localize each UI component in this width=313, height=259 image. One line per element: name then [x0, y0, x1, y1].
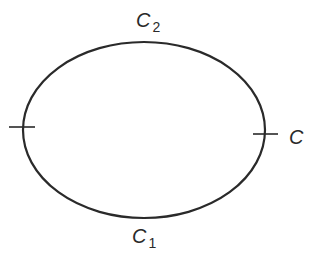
label-lower-arc: C1	[132, 226, 156, 250]
label-upper-arc-base: C	[136, 9, 150, 31]
closed-curve-diagram: C2 C C1	[0, 0, 313, 259]
label-lower-arc-base: C	[132, 225, 146, 247]
closed-curve-c	[23, 42, 265, 218]
label-upper-arc: C2	[136, 10, 160, 34]
label-curve: C	[289, 127, 303, 147]
diagram-canvas	[0, 0, 313, 259]
label-upper-arc-subscript: 2	[152, 19, 160, 35]
label-lower-arc-subscript: 1	[148, 235, 156, 251]
label-curve-base: C	[289, 126, 303, 148]
